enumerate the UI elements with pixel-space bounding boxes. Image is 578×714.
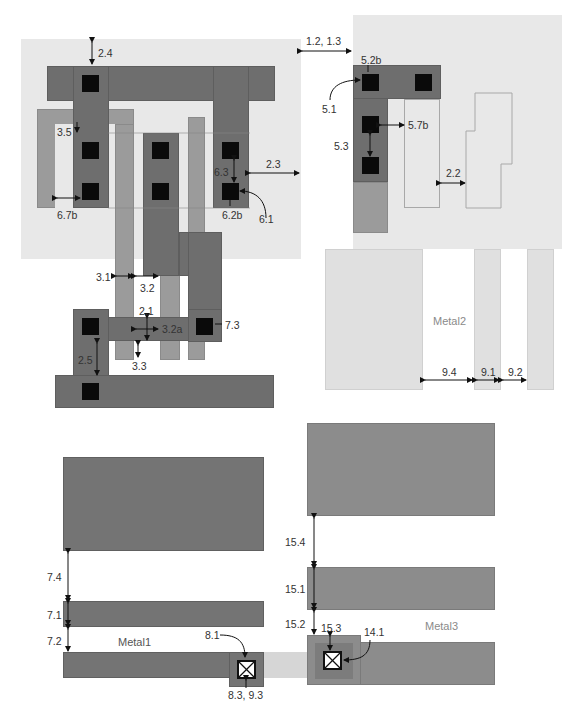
contact — [362, 116, 379, 133]
contact — [82, 183, 99, 200]
rule-3-3-label: 3.3 — [132, 361, 147, 372]
rule-6-7b-label: 6.7b — [57, 210, 77, 221]
rule-2-4-label: 2.4 — [98, 48, 113, 59]
rule-14-1-label: 14.1 — [364, 627, 384, 638]
rule-3-2a-label: 3.2a — [162, 324, 182, 335]
rule-1-2-1-3-label: 1.2, 1.3 — [306, 36, 341, 47]
contact — [196, 318, 213, 335]
rule-7-2-label: 7.2 — [47, 636, 62, 647]
contact — [82, 142, 99, 159]
metal3-large-block — [307, 423, 495, 516]
rule-6-1-label: 6.1 — [259, 214, 274, 225]
metal2-label: Metal2 — [433, 316, 466, 327]
rule-9-4-label: 9.4 — [442, 367, 457, 378]
metal3-mid-strip — [307, 567, 495, 610]
rule-5-1-label: 5.1 — [322, 104, 337, 115]
rule-9-1-label: 9.1 — [481, 367, 496, 378]
rule-15-1-label: 15.1 — [285, 584, 305, 595]
contact — [82, 75, 99, 92]
active-outline-1 — [404, 99, 440, 208]
rule-9-2-label: 9.2 — [508, 367, 523, 378]
metal2-wide-strip — [325, 249, 423, 390]
contact — [152, 183, 169, 200]
contact — [362, 74, 379, 91]
rule-3-1-label: 3.1 — [96, 272, 111, 283]
contact — [362, 157, 379, 174]
rule-8-3-9-3-label: 8.3, 9.3 — [228, 690, 263, 701]
rule-7-1-label: 7.1 — [47, 610, 62, 621]
rule-3-5-label: 3.5 — [57, 127, 72, 138]
rule-5-7b-label: 5.7b — [408, 120, 428, 131]
metal1-large-block — [63, 457, 264, 551]
rule-5-3-label: 5.3 — [334, 141, 349, 152]
contact — [222, 183, 239, 200]
contact — [82, 318, 99, 335]
metal2-strip-3 — [527, 249, 554, 390]
metal2-connector — [264, 652, 308, 678]
contact — [222, 142, 239, 159]
via2-icon — [323, 651, 342, 670]
metal1-label: Metal1 — [118, 637, 151, 648]
via1-icon — [237, 660, 256, 679]
contact — [152, 142, 169, 159]
rule-2-5-label: 2.5 — [78, 355, 93, 366]
rule-6-3-label: 6.3 — [214, 167, 229, 178]
rule-8-1-label: 8.1 — [205, 630, 220, 641]
rule-7-3-label: 7.3 — [225, 320, 240, 331]
rule-15-2-label: 15.2 — [285, 619, 305, 630]
metal1-mid-strip — [63, 601, 264, 627]
rule-7-4-label: 7.4 — [47, 572, 62, 583]
rule-2-2-label: 2.2 — [446, 168, 461, 179]
rule-2-3-label: 2.3 — [266, 159, 281, 170]
rule-2-1-label: 2.1 — [139, 306, 154, 317]
rule-15-4-label: 15.4 — [285, 537, 305, 548]
contact — [415, 74, 432, 91]
metal3-label: Metal3 — [425, 621, 458, 632]
contact — [82, 383, 99, 400]
rule-3-2-label: 3.2 — [140, 283, 155, 294]
rule-15-3-label: 15.3 — [321, 623, 341, 634]
poly-right-stub — [353, 182, 388, 233]
rule-5-2b-label: 5.2b — [361, 55, 381, 66]
rule-6-2b-label: 6.2b — [222, 210, 242, 221]
